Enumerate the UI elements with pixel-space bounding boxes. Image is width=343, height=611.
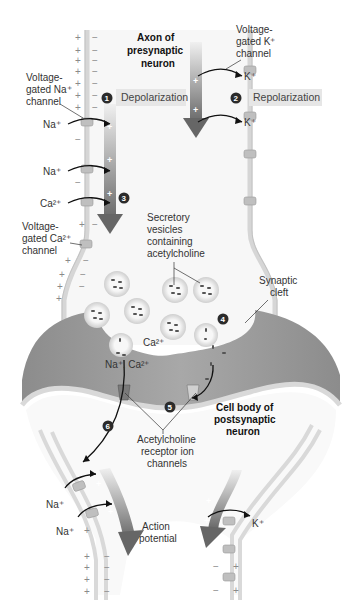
svg-text:Depolarization: Depolarization — [121, 91, 188, 103]
svg-text:+: + — [75, 90, 81, 101]
svg-text:acetylcholine: acetylcholine — [147, 248, 205, 259]
svg-text:potential: potential — [139, 533, 177, 544]
svg-text:−: − — [92, 32, 98, 43]
svg-text:K⁺: K⁺ — [252, 518, 264, 529]
svg-text:Action: Action — [142, 521, 170, 532]
postsynaptic-membrane — [22, 384, 340, 600]
svg-text:Secretory: Secretory — [147, 212, 190, 223]
svg-text:Repolarization: Repolarization — [253, 91, 320, 103]
svg-text:+: + — [233, 585, 239, 596]
svg-text:5: 5 — [168, 403, 173, 412]
step-6-badge: 6 — [103, 421, 114, 432]
repolarization-label: Repolarization — [249, 89, 322, 106]
svg-text:+: + — [107, 189, 112, 199]
svg-text:1: 1 — [105, 94, 110, 103]
svg-text:Na⁺, Ca²⁺: Na⁺, Ca²⁺ — [105, 359, 149, 370]
svg-text:−: − — [104, 574, 110, 585]
svg-text:cleft: cleft — [270, 287, 289, 298]
svg-text:+: + — [193, 105, 198, 115]
svg-text:+: + — [84, 574, 90, 585]
svg-text:−: − — [75, 177, 81, 188]
svg-text:Na⁺: Na⁺ — [46, 499, 64, 510]
svg-text:−: − — [92, 55, 98, 66]
svg-text:−: − — [92, 78, 98, 89]
svg-text:+: + — [75, 32, 81, 43]
svg-text:Cell body of: Cell body of — [216, 402, 274, 413]
depolarization-label: Depolarization — [116, 89, 188, 106]
vesicle — [84, 302, 110, 328]
svg-text:+: + — [233, 561, 239, 572]
svg-text:3: 3 — [122, 194, 127, 203]
svg-text:+: + — [75, 102, 81, 113]
svg-text:−: − — [92, 102, 98, 113]
svg-text:+: + — [84, 551, 90, 562]
svg-text:+: + — [84, 562, 90, 573]
svg-text:receptor ion: receptor ion — [141, 446, 194, 457]
svg-text:Na⁺: Na⁺ — [43, 166, 61, 177]
step-5-badge: 5 — [165, 402, 176, 413]
ca-channel-terminal — [80, 240, 92, 248]
svg-text:channel: channel — [26, 96, 61, 107]
svg-text:vesicles: vesicles — [147, 224, 183, 235]
svg-text:gated Ca²⁺: gated Ca²⁺ — [22, 233, 71, 244]
fusing-vesicle — [109, 333, 133, 357]
svg-text:+: + — [65, 255, 71, 266]
k-channel-dendrite-3 — [223, 573, 235, 581]
svg-text:channel: channel — [22, 245, 57, 256]
svg-text:neuron: neuron — [226, 426, 260, 437]
svg-text:−: − — [104, 562, 110, 573]
vesicle — [104, 271, 130, 297]
svg-text:K⁺: K⁺ — [244, 117, 256, 128]
ca-channel-top — [81, 198, 93, 206]
svg-text:+: + — [79, 219, 85, 230]
svg-text:+: + — [56, 293, 62, 304]
svg-text:+: + — [59, 269, 65, 280]
vesicle — [162, 277, 188, 303]
svg-text:presynaptic: presynaptic — [127, 45, 184, 56]
svg-text:+: + — [75, 78, 81, 89]
svg-text:+: + — [204, 516, 209, 526]
svg-text:channel: channel — [236, 48, 271, 59]
svg-text:+: + — [84, 586, 90, 597]
svg-text:Axon of: Axon of — [137, 32, 175, 43]
step-1-badge: 1 — [102, 93, 113, 104]
svg-text:gated K⁺: gated K⁺ — [236, 36, 275, 47]
svg-text:K⁺: K⁺ — [244, 71, 256, 82]
svg-text:+: + — [108, 507, 113, 517]
svg-text:+: + — [206, 496, 211, 506]
svg-text:−: − — [79, 281, 85, 292]
svg-text:−: − — [213, 585, 219, 596]
svg-text:−: − — [213, 561, 219, 572]
vesicle — [124, 298, 150, 324]
action-potential-label: Action potential — [139, 521, 177, 544]
svg-text:+: + — [96, 479, 101, 489]
svg-text:+: + — [84, 525, 90, 536]
svg-text:−: − — [104, 551, 110, 562]
svg-text:Voltage-: Voltage- — [22, 221, 59, 232]
svg-text:−: − — [92, 90, 98, 101]
svg-text:postsynaptic: postsynaptic — [214, 414, 276, 425]
step-4-badge: 4 — [218, 314, 229, 325]
svg-text:Synaptic: Synaptic — [259, 275, 297, 286]
svg-text:+: + — [193, 76, 198, 86]
step-2-badge: 2 — [231, 93, 242, 104]
svg-text:6: 6 — [106, 422, 111, 431]
svg-text:Acetylcholine: Acetylcholine — [137, 434, 196, 445]
svg-text:−: − — [83, 255, 89, 266]
svg-text:gated Na⁺: gated Na⁺ — [26, 84, 72, 95]
svg-text:channels: channels — [147, 458, 187, 469]
svg-text:−: − — [104, 586, 110, 597]
ca-channel-label: Voltage- gated Ca²⁺ channel — [22, 221, 82, 256]
svg-text:+: + — [75, 66, 81, 77]
svg-text:neuron: neuron — [141, 58, 175, 69]
svg-text:−: − — [92, 66, 98, 77]
svg-text:+: + — [75, 55, 81, 66]
svg-text:Na⁺: Na⁺ — [56, 526, 74, 537]
k-channel-3 — [244, 150, 256, 158]
svg-text:+: + — [107, 155, 112, 165]
svg-text:+: + — [57, 281, 63, 292]
svg-text:−: − — [80, 269, 86, 280]
k-channel-4 — [244, 197, 256, 205]
svg-text:2: 2 — [234, 94, 239, 103]
svg-text:−: − — [75, 134, 81, 145]
